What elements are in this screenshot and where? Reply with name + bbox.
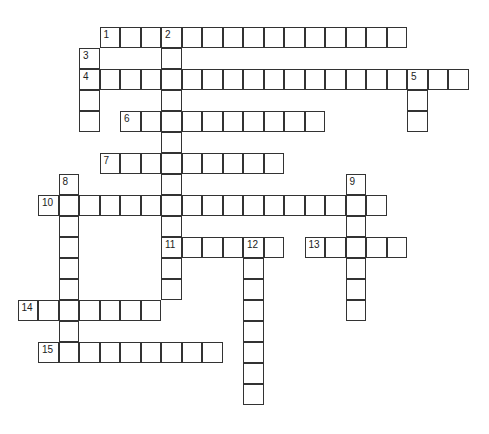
crossword-cell[interactable] [161, 48, 182, 69]
crossword-cell[interactable] [120, 342, 141, 363]
crossword-cell[interactable] [448, 69, 469, 90]
crossword-cell[interactable]: 1 [100, 27, 121, 48]
crossword-cell[interactable] [243, 300, 264, 321]
crossword-cell[interactable] [100, 69, 121, 90]
crossword-cell[interactable] [79, 111, 100, 132]
crossword-cell[interactable] [346, 237, 367, 258]
crossword-cell[interactable] [79, 342, 100, 363]
crossword-cell[interactable] [243, 279, 264, 300]
crossword-cell[interactable] [141, 342, 162, 363]
crossword-cell[interactable] [325, 69, 346, 90]
crossword-cell[interactable] [161, 69, 182, 90]
crossword-cell[interactable] [100, 300, 121, 321]
crossword-cell[interactable] [182, 69, 203, 90]
crossword-cell[interactable] [243, 27, 264, 48]
crossword-cell[interactable] [79, 195, 100, 216]
crossword-cell[interactable] [407, 111, 428, 132]
crossword-cell[interactable] [407, 90, 428, 111]
crossword-cell[interactable] [284, 69, 305, 90]
crossword-cell[interactable] [141, 111, 162, 132]
crossword-cell[interactable]: 13 [305, 237, 326, 258]
crossword-cell[interactable]: 11 [161, 237, 182, 258]
crossword-cell[interactable] [325, 27, 346, 48]
crossword-cell[interactable]: 15 [38, 342, 59, 363]
crossword-cell[interactable]: 6 [120, 111, 141, 132]
crossword-cell[interactable]: 10 [38, 195, 59, 216]
crossword-cell[interactable] [202, 153, 223, 174]
crossword-cell[interactable] [38, 300, 59, 321]
crossword-cell[interactable] [387, 237, 408, 258]
crossword-cell[interactable] [264, 27, 285, 48]
crossword-cell[interactable] [346, 279, 367, 300]
crossword-cell[interactable] [346, 300, 367, 321]
crossword-cell[interactable] [346, 195, 367, 216]
crossword-cell[interactable] [79, 90, 100, 111]
crossword-cell[interactable] [100, 195, 121, 216]
crossword-cell[interactable] [182, 153, 203, 174]
crossword-cell[interactable] [120, 153, 141, 174]
crossword-cell[interactable] [223, 27, 244, 48]
crossword-cell[interactable] [59, 258, 80, 279]
crossword-cell[interactable] [120, 69, 141, 90]
crossword-cell[interactable] [305, 27, 326, 48]
crossword-cell[interactable] [243, 111, 264, 132]
crossword-cell[interactable] [161, 111, 182, 132]
crossword-cell[interactable] [305, 111, 326, 132]
crossword-cell[interactable] [59, 279, 80, 300]
crossword-cell[interactable] [161, 90, 182, 111]
crossword-cell[interactable] [59, 237, 80, 258]
crossword-cell[interactable] [59, 300, 80, 321]
crossword-cell[interactable] [202, 27, 223, 48]
crossword-cell[interactable] [120, 300, 141, 321]
crossword-cell[interactable] [346, 27, 367, 48]
crossword-cell[interactable] [243, 195, 264, 216]
crossword-cell[interactable] [182, 237, 203, 258]
crossword-cell[interactable]: 8 [59, 174, 80, 195]
crossword-cell[interactable] [182, 342, 203, 363]
crossword-cell[interactable] [59, 216, 80, 237]
crossword-cell[interactable] [284, 111, 305, 132]
crossword-cell[interactable]: 5 [407, 69, 428, 90]
crossword-cell[interactable] [284, 27, 305, 48]
crossword-cell[interactable] [223, 69, 244, 90]
crossword-cell[interactable] [325, 195, 346, 216]
crossword-cell[interactable] [264, 237, 285, 258]
crossword-cell[interactable]: 7 [100, 153, 121, 174]
crossword-cell[interactable]: 3 [79, 48, 100, 69]
crossword-cell[interactable] [366, 237, 387, 258]
crossword-cell[interactable] [141, 27, 162, 48]
crossword-cell[interactable]: 14 [18, 300, 39, 321]
crossword-cell[interactable] [161, 258, 182, 279]
crossword-cell[interactable] [366, 195, 387, 216]
crossword-cell[interactable] [161, 279, 182, 300]
crossword-cell[interactable] [264, 69, 285, 90]
crossword-cell[interactable] [305, 69, 326, 90]
crossword-cell[interactable] [141, 153, 162, 174]
crossword-cell[interactable]: 2 [161, 27, 182, 48]
crossword-cell[interactable] [79, 300, 100, 321]
crossword-cell[interactable] [202, 237, 223, 258]
crossword-cell[interactable] [243, 69, 264, 90]
crossword-cell[interactable] [59, 321, 80, 342]
crossword-cell[interactable] [428, 69, 449, 90]
crossword-cell[interactable] [264, 195, 285, 216]
crossword-cell[interactable] [243, 153, 264, 174]
crossword-cell[interactable] [161, 216, 182, 237]
crossword-cell[interactable] [387, 27, 408, 48]
crossword-cell[interactable]: 4 [79, 69, 100, 90]
crossword-cell[interactable] [387, 69, 408, 90]
crossword-cell[interactable] [182, 195, 203, 216]
crossword-cell[interactable] [243, 384, 264, 405]
crossword-cell[interactable] [161, 174, 182, 195]
crossword-cell[interactable] [182, 111, 203, 132]
crossword-cell[interactable]: 12 [243, 237, 264, 258]
crossword-cell[interactable] [161, 195, 182, 216]
crossword-cell[interactable] [202, 342, 223, 363]
crossword-cell[interactable] [325, 237, 346, 258]
crossword-cell[interactable] [223, 153, 244, 174]
crossword-cell[interactable] [346, 258, 367, 279]
crossword-cell[interactable] [161, 153, 182, 174]
crossword-cell[interactable]: 9 [346, 174, 367, 195]
crossword-cell[interactable] [284, 195, 305, 216]
crossword-cell[interactable] [202, 69, 223, 90]
